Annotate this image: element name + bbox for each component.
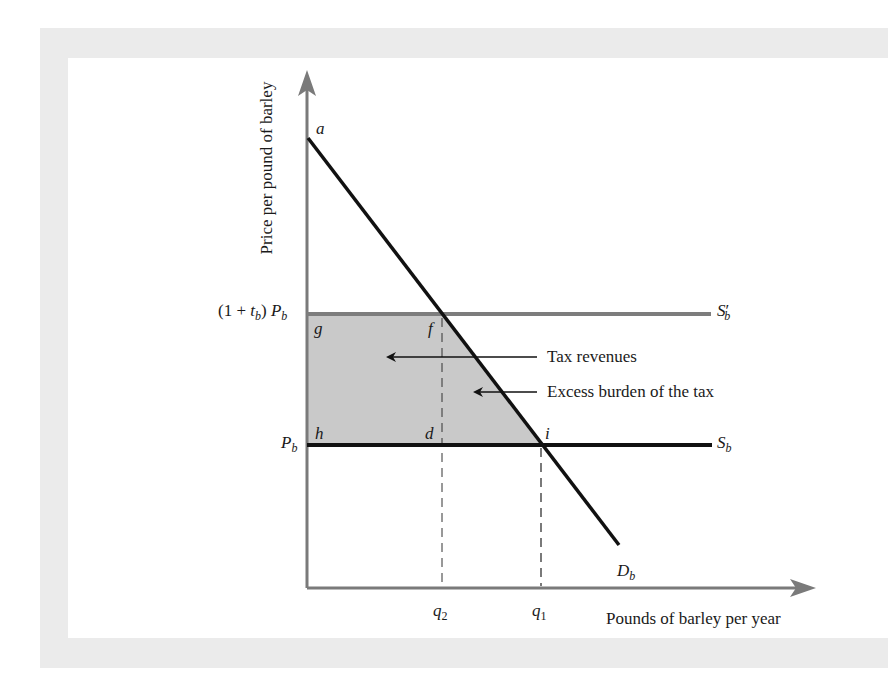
curve-label-d: Db (617, 562, 635, 582)
x-tick-q2: q2 (433, 602, 448, 622)
curve-label-s-prime: S′b (717, 302, 730, 322)
point-label-i: i (545, 425, 550, 442)
point-label-g: g (314, 320, 323, 337)
point-label-h: h (315, 425, 324, 442)
y-axis-label: Price per pound of barley (257, 71, 277, 266)
y-tick-taxed-price: (1 + tb) Pb (218, 302, 287, 322)
excess-burden-label: Excess burden of the tax (547, 383, 714, 400)
point-label-d: d (425, 425, 434, 442)
curve-label-s: Sb (717, 434, 732, 454)
diagram-graphics (0, 0, 888, 685)
point-label-f: f (428, 320, 433, 337)
tax-revenues-label: Tax revenues (547, 348, 637, 365)
x-tick-q1: q1 (532, 602, 547, 622)
y-tick-price: Pb (281, 434, 297, 454)
x-axis-label: Pounds of barley per year (606, 610, 781, 627)
point-label-a: a (316, 120, 325, 137)
